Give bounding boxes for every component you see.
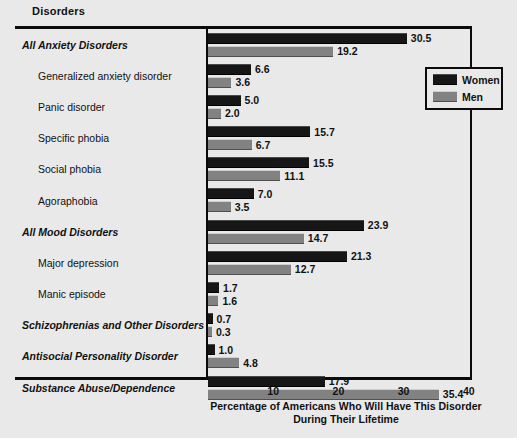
caption-line-1: Percentage of Americans Who Will Have Th… — [196, 400, 496, 413]
row-label: Generalized anxiety disorder — [0, 70, 234, 82]
row-bars: 30.519.2 — [208, 29, 517, 60]
bar-value-label: 23.9 — [364, 219, 388, 231]
bar-women — [208, 282, 219, 293]
row-bars: 21.312.7 — [208, 247, 517, 278]
chart-legend: Women Men — [425, 67, 503, 110]
bar-group-men: 14.7 — [208, 233, 304, 244]
bar-value-label: 1.6 — [218, 295, 237, 307]
bar-men — [208, 233, 304, 244]
bar-value-label: 15.5 — [309, 157, 333, 169]
bar-men — [208, 201, 231, 212]
bar-men — [208, 77, 231, 88]
x-tick-20: 20 — [333, 385, 345, 397]
chart-row: All Anxiety Disorders30.519.2 — [0, 29, 517, 60]
bar-group-men: 4.8 — [208, 357, 239, 368]
x-tick-30: 30 — [398, 385, 410, 397]
bar-value-label: 4.8 — [239, 357, 258, 369]
row-bars: 1.04.8 — [208, 341, 517, 372]
row-label: Agoraphobia — [0, 195, 234, 207]
chart-row: Social phobia15.511.1 — [0, 154, 517, 185]
bar-group-women: 1.0 — [208, 344, 215, 355]
bar-men — [208, 139, 252, 150]
bar-group-women: 0.7 — [208, 313, 213, 324]
chart-row: Major depression21.312.7 — [0, 247, 517, 278]
chart-row: Antisocial Personality Disorder1.04.8 — [0, 341, 517, 372]
bar-group-men: 3.5 — [208, 201, 231, 212]
bar-value-label: 11.1 — [280, 170, 304, 182]
row-bars: 15.511.1 — [208, 154, 517, 185]
chart-figure: Disorders All Anxiety Disorders30.519.2G… — [0, 0, 517, 438]
legend-item-men: Men — [433, 90, 483, 103]
chart-row: All Mood Disorders23.914.7 — [0, 216, 517, 247]
x-tick-10: 10 — [267, 385, 279, 397]
bar-group-women: 15.5 — [208, 157, 309, 168]
bar-group-women: 1.7 — [208, 282, 219, 293]
legend-label-men: Men — [462, 91, 483, 103]
row-bars: 7.03.5 — [208, 185, 517, 216]
bar-value-label: 0.3 — [212, 326, 231, 338]
bar-group-women: 23.9 — [208, 220, 364, 231]
row-label: Manic episode — [0, 288, 234, 300]
bar-group-men: 19.2 — [208, 46, 333, 57]
chart-row: Schizophrenias and Other Disorders0.70.3 — [0, 310, 517, 341]
bar-group-women: 15.7 — [208, 126, 310, 137]
men-swatch-icon — [433, 91, 457, 102]
column-header-disorders: Disorders — [32, 5, 85, 17]
caption-line-2: During Their Lifetime — [196, 413, 496, 426]
bar-group-women: 30.5 — [208, 33, 407, 44]
legend-label-women: Women — [462, 74, 500, 86]
row-bars: 23.914.7 — [208, 216, 517, 247]
bar-value-label: 19.2 — [333, 45, 357, 57]
bar-group-men: 11.1 — [208, 170, 280, 181]
bar-women — [208, 157, 309, 168]
bar-men — [208, 170, 280, 181]
bar-women — [208, 126, 310, 137]
bar-men — [208, 108, 221, 119]
bar-men — [208, 295, 218, 306]
row-label: Antisocial Personality Disorder — [0, 350, 218, 362]
bar-men — [208, 264, 291, 275]
x-tick-40: 40 — [463, 385, 475, 397]
bar-group-men: 3.6 — [208, 77, 231, 88]
row-label: Panic disorder — [0, 101, 234, 113]
bar-group-women: 7.0 — [208, 188, 254, 199]
chart-row: Agoraphobia7.03.5 — [0, 185, 517, 216]
bar-group-men: 6.7 — [208, 139, 252, 150]
bar-women — [208, 95, 241, 106]
bar-value-label: 21.3 — [347, 250, 371, 262]
bar-value-label: 5.0 — [241, 94, 260, 106]
bar-group-men: 2.0 — [208, 108, 221, 119]
bar-group-women: 6.6 — [208, 64, 251, 75]
row-label: Major depression — [0, 257, 234, 269]
row-label: Specific phobia — [0, 132, 234, 144]
row-bars: 15.76.7 — [208, 123, 517, 154]
bar-women — [208, 251, 347, 262]
bar-value-label: 3.5 — [231, 201, 250, 213]
bar-value-label: 3.6 — [231, 76, 250, 88]
bar-value-label: 6.6 — [251, 63, 270, 75]
bar-value-label: 30.5 — [407, 32, 431, 44]
legend-item-women: Women — [433, 73, 500, 86]
x-axis-caption: Percentage of Americans Who Will Have Th… — [196, 400, 496, 425]
bar-group-women: 21.3 — [208, 251, 347, 262]
chart-row: Manic episode1.71.6 — [0, 279, 517, 310]
row-label: Social phobia — [0, 163, 234, 175]
row-bars: 0.70.3 — [208, 310, 517, 341]
row-label: All Anxiety Disorders — [0, 39, 218, 51]
bar-value-label: 1.0 — [215, 344, 234, 356]
bar-value-label: 12.7 — [291, 263, 315, 275]
bar-group-women: 5.0 — [208, 95, 241, 106]
bar-group-men: 1.6 — [208, 295, 218, 306]
bar-men — [208, 46, 333, 57]
bar-women — [208, 33, 407, 44]
row-label: Schizophrenias and Other Disorders — [0, 319, 218, 331]
bar-value-label: 0.7 — [213, 313, 232, 325]
row-label: All Mood Disorders — [0, 226, 218, 238]
bar-group-men: 0.3 — [208, 326, 212, 337]
bar-group-men: 12.7 — [208, 264, 291, 275]
bar-value-label: 14.7 — [304, 232, 328, 244]
bar-value-label: 7.0 — [254, 188, 273, 200]
bar-women — [208, 64, 251, 75]
bar-value-label: 15.7 — [310, 126, 334, 138]
bar-women — [208, 188, 254, 199]
